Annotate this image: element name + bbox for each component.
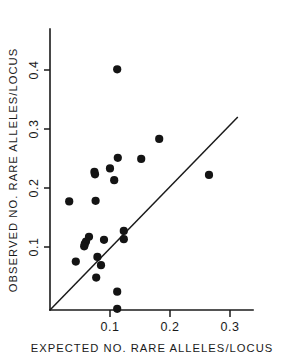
y-axis-title: OBSERVED NO. RARE ALLELES/LOCUS <box>7 48 19 292</box>
data-point <box>155 135 163 143</box>
data-point <box>113 65 121 73</box>
x-tick-label-0.3: 0.3 <box>220 320 239 334</box>
data-point <box>120 235 128 243</box>
data-point <box>92 273 100 281</box>
x-tick-label-0.1: 0.1 <box>100 320 119 334</box>
data-point <box>114 154 122 162</box>
data-point <box>137 155 145 163</box>
y-tick-label-0.2: 0.2 <box>27 178 41 197</box>
x-tick-label-0.2: 0.2 <box>160 320 179 334</box>
data-point <box>113 288 121 296</box>
axis-group <box>50 29 253 310</box>
y-tick-marks <box>44 70 50 247</box>
data-point <box>205 171 213 179</box>
x-tick-marks <box>110 310 230 317</box>
y-tick-label-0.1: 0.1 <box>27 237 41 256</box>
data-point <box>65 197 73 205</box>
data-point <box>113 305 121 313</box>
y-tick-labels: 0.4 0.3 0.2 0.1 <box>27 60 41 256</box>
scatter-plot-canvas: 0.4 0.3 0.2 0.1 0.1 0.2 0.3 OBSERVED NO.… <box>0 0 300 362</box>
x-axis-title: EXPECTED NO. RARE ALLELES/LOCUS <box>31 342 274 354</box>
data-points-layer <box>65 65 213 313</box>
data-point <box>106 164 114 172</box>
data-point <box>120 227 128 235</box>
y-tick-label-0.3: 0.3 <box>27 119 41 138</box>
data-point <box>92 197 100 205</box>
data-point <box>93 253 101 261</box>
data-point <box>110 176 118 184</box>
data-point <box>80 242 88 250</box>
data-point <box>91 170 99 178</box>
identity-reference-line <box>50 117 238 310</box>
y-tick-label-0.4: 0.4 <box>27 60 41 79</box>
x-tick-labels: 0.1 0.2 0.3 <box>100 320 239 334</box>
data-point <box>97 261 105 269</box>
data-point <box>72 258 80 266</box>
reference-line-layer <box>50 117 238 310</box>
data-point <box>100 236 108 244</box>
scatter-plot-figure: 0.4 0.3 0.2 0.1 0.1 0.2 0.3 OBSERVED NO.… <box>0 0 300 362</box>
